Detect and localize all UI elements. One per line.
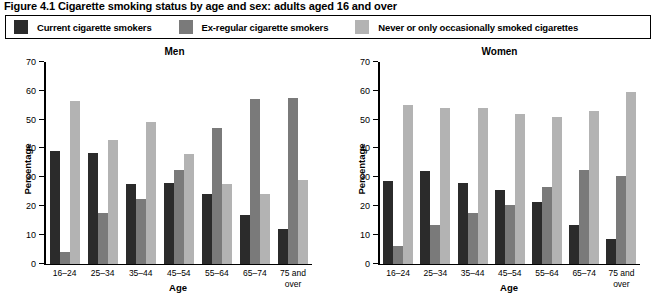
y-tick-mark	[373, 147, 378, 148]
plot-area-women: 010203040506070 16–2425–3435–4445–5455–6…	[378, 62, 640, 265]
y-tick-label: 50	[360, 115, 370, 125]
y-tick-label: 40	[26, 143, 36, 153]
y-tick-label: 10	[360, 230, 370, 240]
bar-group	[528, 62, 565, 264]
bar-group	[84, 62, 122, 264]
bar	[164, 183, 174, 264]
panel-title-women: Women	[330, 46, 659, 57]
bar	[126, 184, 136, 263]
bar-group	[198, 62, 236, 264]
y-tick-mark	[39, 147, 44, 148]
y-tick-mark	[39, 90, 44, 91]
bar	[98, 213, 108, 263]
y-tick-mark	[39, 234, 44, 235]
bar	[383, 181, 393, 263]
bar	[174, 170, 184, 264]
y-tick-mark	[39, 61, 44, 62]
bar	[626, 92, 636, 263]
bar-group	[122, 62, 160, 264]
bar	[88, 153, 98, 264]
y-tick-mark	[39, 263, 44, 264]
legend-swatch-ex-regular-icon	[179, 20, 193, 34]
chart-panel-men: Men Percentage 010203040506070 16–2425–3…	[0, 44, 329, 294]
bar-group	[491, 62, 528, 264]
legend-label-never: Never or only occasionally smoked cigare…	[378, 22, 578, 33]
y-tick-mark	[373, 119, 378, 120]
chart-panel-women: Women Percentage 010203040506070 16–2425…	[330, 44, 659, 294]
bar	[184, 154, 194, 263]
bar	[278, 229, 288, 264]
bar-group	[274, 62, 312, 264]
y-tick-mark	[373, 205, 378, 206]
y-tick-mark	[373, 61, 378, 62]
bar-group	[417, 62, 454, 264]
legend-label-ex-regular: Ex-regular cigarette smokers	[202, 22, 329, 33]
y-tick-label: 0	[365, 259, 370, 269]
y-tick-label: 0	[31, 259, 36, 269]
bar	[542, 187, 552, 263]
y-tick-mark	[373, 176, 378, 177]
y-tick-mark	[373, 90, 378, 91]
bar	[60, 252, 70, 264]
y-tick-label: 30	[360, 172, 370, 182]
legend-swatch-current-icon	[14, 20, 28, 34]
y-tick-label: 10	[26, 230, 36, 240]
bar	[606, 239, 616, 263]
chart-legend: Current cigarette smokers Ex-regular cig…	[5, 15, 651, 39]
bar-group	[603, 62, 640, 264]
panel-title-men: Men	[0, 46, 329, 57]
bar	[430, 225, 440, 264]
legend-item-current: Current cigarette smokers	[14, 20, 152, 34]
bar	[505, 205, 515, 264]
y-tick-label: 70	[26, 57, 36, 67]
bar-group	[380, 62, 417, 264]
bar	[222, 184, 232, 263]
y-tick-mark	[373, 234, 378, 235]
bar	[108, 140, 118, 264]
bar	[136, 199, 146, 264]
bar	[70, 101, 80, 264]
y-tick-label: 20	[360, 201, 370, 211]
figure-title: Figure 4.1 Cigarette smoking status by a…	[4, 0, 397, 12]
y-tick-mark	[39, 176, 44, 177]
bar	[458, 183, 468, 264]
bar	[616, 176, 626, 264]
bar	[146, 122, 156, 263]
bar-group	[160, 62, 198, 264]
y-tick-mark	[39, 205, 44, 206]
bar	[468, 213, 478, 263]
bar	[240, 215, 250, 264]
x-axis-label-men: Age	[44, 282, 312, 293]
bar	[212, 128, 222, 263]
bar-groups-men	[46, 62, 313, 264]
bar-group	[46, 62, 84, 264]
bar	[202, 194, 212, 263]
legend-item-never: Never or only occasionally smoked cigare…	[355, 20, 578, 34]
bar-group	[236, 62, 274, 264]
y-tick-label: 60	[360, 86, 370, 96]
bar	[50, 151, 60, 263]
bar	[579, 170, 589, 264]
bar	[495, 190, 505, 263]
plot-area-men: 010203040506070 16–2425–3435–4445–5455–6…	[44, 62, 312, 265]
bar-group	[566, 62, 603, 264]
bar	[552, 117, 562, 264]
legend-item-ex-regular: Ex-regular cigarette smokers	[179, 20, 329, 34]
bar	[393, 246, 403, 263]
y-tick-label: 50	[26, 115, 36, 125]
bar	[589, 111, 599, 264]
bar	[403, 105, 413, 263]
bar	[515, 114, 525, 264]
x-axis-line-women	[378, 264, 640, 266]
y-tick-label: 60	[26, 86, 36, 96]
legend-swatch-never-icon	[355, 20, 369, 34]
bar	[569, 225, 579, 264]
bar	[440, 108, 450, 263]
bar	[250, 99, 260, 263]
y-tick-mark	[373, 263, 378, 264]
bar-groups-women	[380, 62, 641, 264]
bar	[532, 202, 542, 264]
x-axis-label-women: Age	[378, 282, 640, 293]
legend-label-current: Current cigarette smokers	[37, 22, 152, 33]
y-tick-label: 70	[360, 57, 370, 67]
